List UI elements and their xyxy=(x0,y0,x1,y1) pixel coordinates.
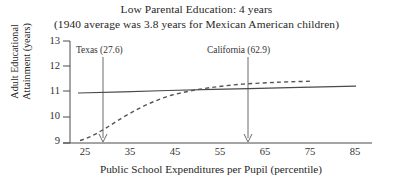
chart-figure: Low Parental Education: 4 years (1940 av… xyxy=(0,0,393,184)
plot-area xyxy=(0,0,393,184)
x-axis-label: Public School Expenditures per Pupil (pe… xyxy=(46,163,376,175)
series-solid-line xyxy=(78,86,356,93)
annotation-arrows xyxy=(99,57,252,142)
